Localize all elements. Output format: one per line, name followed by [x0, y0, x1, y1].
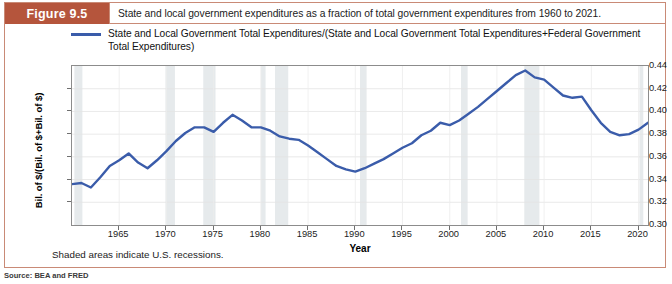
- y-axis-tick-label: 0.44: [639, 60, 667, 70]
- recession-band: [261, 66, 266, 225]
- x-axis-tick-label: 1980: [240, 229, 280, 239]
- x-axis-tick-mark: [638, 226, 639, 230]
- y-axis-tick-label: 0.42: [639, 83, 667, 93]
- recession-band: [275, 66, 288, 225]
- y-axis-tick-mark: [67, 110, 71, 111]
- x-axis-tick-label: 2020: [618, 229, 658, 239]
- x-axis-tick-label: 1990: [334, 229, 374, 239]
- x-axis-tick-mark: [354, 226, 355, 230]
- line-chart-svg: [72, 66, 648, 225]
- x-axis-tick-mark: [543, 226, 544, 230]
- x-axis-tick-mark: [213, 226, 214, 230]
- x-axis-tick-label: 2000: [429, 229, 469, 239]
- y-axis-tick-labels: [37, 65, 69, 226]
- x-axis-tick-mark: [449, 226, 450, 230]
- x-axis-tick-mark: [260, 226, 261, 230]
- recession-band: [461, 66, 468, 225]
- y-axis-tick-label: 0.36: [639, 151, 667, 161]
- x-axis-tick-mark: [496, 226, 497, 230]
- y-axis-tick-label: 0.40: [639, 105, 667, 115]
- y-axis-tick-label: 0.34: [639, 174, 667, 184]
- y-axis-tick-mark: [67, 88, 71, 89]
- x-axis-tick-label: 1970: [145, 229, 185, 239]
- x-axis-tick-mark: [401, 226, 402, 230]
- recession-footnote: Shaded areas indicate U.S. recessions.: [52, 249, 224, 260]
- x-axis-tick-label: 2010: [523, 229, 563, 239]
- x-axis-tick-label: 1995: [381, 229, 421, 239]
- recession-band: [360, 66, 367, 225]
- x-axis-tick-label: 2005: [476, 229, 516, 239]
- source-attribution: Source: BEA and FRED: [4, 271, 89, 280]
- x-axis-tick-label: 2015: [570, 229, 610, 239]
- x-axis-tick-label: 1965: [98, 229, 138, 239]
- y-axis-tick-label: 0.38: [639, 128, 667, 138]
- x-axis-tick-mark: [590, 226, 591, 230]
- figure-frame: Figure 9.5 State and local government ex…: [4, 2, 666, 268]
- recession-band: [524, 66, 539, 225]
- x-axis-tick-mark: [118, 226, 119, 230]
- y-axis-tick-mark: [67, 133, 71, 134]
- x-axis-tick-label: 1985: [287, 229, 327, 239]
- chart-area: Bil. of $/(Bil. of $+Bil. of $) Year 0.3…: [5, 3, 667, 269]
- y-axis-tick-label: 0.32: [639, 196, 667, 206]
- y-axis-tick-mark: [67, 201, 71, 202]
- x-axis-tick-mark: [165, 226, 166, 230]
- x-axis-tick-label: 1975: [193, 229, 233, 239]
- recession-band: [74, 66, 82, 225]
- x-axis-tick-mark: [307, 226, 308, 230]
- y-axis-tick-label: 0.30: [639, 219, 667, 229]
- plot-canvas: [71, 65, 649, 226]
- y-axis-tick-mark: [67, 179, 71, 180]
- y-axis-tick-mark: [67, 156, 71, 157]
